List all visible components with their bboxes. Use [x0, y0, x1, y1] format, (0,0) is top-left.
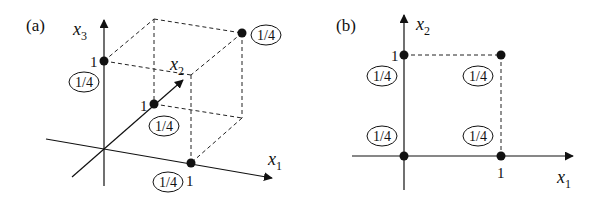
point-010	[150, 100, 159, 109]
prob-label-11: 1/4	[463, 66, 493, 86]
svg-text:1/4: 1/4	[155, 119, 173, 134]
panel-a: (a) x3 x2 x1 1	[26, 16, 282, 192]
panel-b-label: (b)	[336, 16, 356, 35]
point-001	[100, 57, 109, 66]
point-00	[400, 152, 409, 161]
x1-axis	[46, 139, 272, 178]
prob-label-001: 1/4	[69, 72, 99, 92]
x3-axis-label: x3	[72, 19, 87, 43]
panel-a-label: (a)	[26, 16, 45, 35]
x1-axis-label: x1	[267, 149, 282, 173]
x2-tick-1: 1	[140, 98, 148, 114]
svg-text:1/4: 1/4	[75, 75, 93, 90]
x2-axis-label-b: x2	[415, 14, 430, 38]
prob-label-10: 1/4	[463, 126, 493, 146]
prob-label-010: 1/4	[149, 116, 179, 136]
x2-axis-label: x2	[169, 54, 184, 78]
svg-text:1/4: 1/4	[469, 69, 487, 84]
point-01	[400, 51, 409, 60]
svg-text:1/4: 1/4	[373, 129, 391, 144]
prob-label-00: 1/4	[367, 126, 397, 146]
point-100	[187, 159, 196, 168]
panel-b: (b) x2 x1 1 1 1/4 1/4	[336, 14, 573, 191]
prob-label-01: 1/4	[367, 66, 397, 86]
svg-text:1/4: 1/4	[373, 69, 391, 84]
x2-tick-1-b: 1	[391, 48, 399, 64]
prob-label-100: 1/4	[153, 172, 183, 192]
svg-text:1/4: 1/4	[257, 28, 275, 43]
cube-edges	[104, 19, 242, 163]
x3-tick-1: 1	[90, 54, 98, 70]
x1-axis-label-b: x1	[556, 167, 571, 191]
svg-text:1/4: 1/4	[159, 175, 177, 190]
figure: (a) x3 x2 x1 1	[0, 0, 594, 201]
point-10	[497, 152, 506, 161]
x1-tick-1-b: 1	[497, 165, 505, 181]
point-111	[238, 29, 247, 38]
x1-tick-1: 1	[186, 173, 194, 189]
point-11	[497, 51, 506, 60]
svg-text:1/4: 1/4	[469, 129, 487, 144]
prob-label-111: 1/4	[251, 25, 281, 45]
